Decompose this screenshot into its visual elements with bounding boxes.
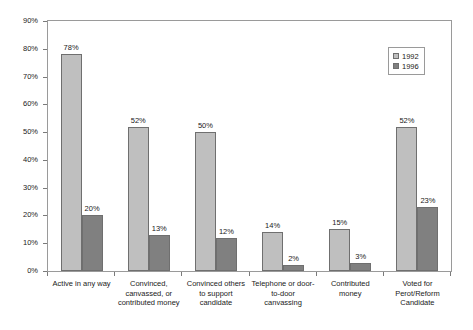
bar-value-label: 52% bbox=[399, 117, 414, 125]
legend: 19921996 bbox=[388, 47, 425, 75]
x-tick-mark bbox=[383, 272, 384, 276]
bar-1996 bbox=[82, 215, 103, 271]
x-tick-mark bbox=[181, 272, 182, 276]
category-label-2: Convinced others to support candidate bbox=[182, 279, 249, 308]
bar-value-label: 12% bbox=[219, 228, 234, 236]
x-tick-mark bbox=[47, 272, 48, 276]
bar-column: 13% bbox=[149, 21, 170, 271]
bar-column: 20% bbox=[82, 21, 103, 271]
x-tick-mark bbox=[249, 272, 250, 276]
bar-1992 bbox=[128, 127, 149, 271]
bar-value-label: 14% bbox=[265, 222, 280, 230]
legend-item-1996: 1996 bbox=[393, 61, 419, 71]
bar-1996 bbox=[350, 263, 371, 271]
bar-group: 15%3% bbox=[317, 21, 384, 271]
bar-group: 14%2% bbox=[250, 21, 317, 271]
bar-value-label: 15% bbox=[332, 219, 347, 227]
y-tick-label: 70% bbox=[23, 73, 38, 81]
bar-column: 2% bbox=[283, 21, 304, 271]
bar-1992 bbox=[195, 132, 216, 271]
bar-1992 bbox=[329, 229, 350, 271]
bar-column: 50% bbox=[195, 21, 216, 271]
bar-value-label: 3% bbox=[355, 253, 366, 261]
legend-label: 1992 bbox=[402, 52, 419, 61]
bar-1992 bbox=[396, 127, 417, 271]
legend-label: 1996 bbox=[402, 62, 419, 71]
y-tick-label: 60% bbox=[23, 100, 38, 108]
bar-1992 bbox=[61, 54, 82, 271]
category-label-1: Convinced, canvassed, or contributed mon… bbox=[115, 279, 182, 308]
bar-column: 3% bbox=[350, 21, 371, 271]
bar-value-label: 78% bbox=[64, 44, 79, 52]
bar-group: 52%13% bbox=[115, 21, 182, 271]
bar-chart: 90%80%70%60%50%40%30%20%10%0% 78%20%52%1… bbox=[0, 0, 473, 330]
x-axis-ticks bbox=[47, 272, 452, 276]
bar-value-label: 2% bbox=[288, 255, 299, 263]
bar-group: 50%12% bbox=[182, 21, 249, 271]
category-label-0: Active in any way bbox=[48, 279, 115, 308]
bar-column: 15% bbox=[329, 21, 350, 271]
bar-column: 12% bbox=[216, 21, 237, 271]
x-axis-category-labels: Active in any wayConvinced, canvassed, o… bbox=[48, 279, 451, 308]
x-tick-mark bbox=[450, 272, 451, 276]
y-tick-label: 90% bbox=[23, 17, 38, 25]
legend-swatch-icon bbox=[393, 63, 399, 69]
bar-1996 bbox=[283, 265, 304, 271]
y-axis: 90%80%70%60%50%40%30%20%10%0% bbox=[0, 0, 47, 330]
y-tick-label: 80% bbox=[23, 45, 38, 53]
bar-1996 bbox=[216, 238, 237, 271]
y-tick-label: 10% bbox=[23, 239, 38, 247]
y-tick-label: 0% bbox=[27, 267, 38, 275]
bar-value-label: 13% bbox=[152, 225, 167, 233]
y-tick-label: 30% bbox=[23, 184, 38, 192]
x-tick-mark bbox=[114, 272, 115, 276]
bar-1996 bbox=[417, 207, 438, 271]
bar-value-label: 52% bbox=[131, 117, 146, 125]
y-tick-label: 40% bbox=[23, 156, 38, 164]
bar-column: 14% bbox=[262, 21, 283, 271]
bar-1992 bbox=[262, 232, 283, 271]
y-tick-label: 20% bbox=[23, 211, 38, 219]
bar-value-label: 20% bbox=[85, 205, 100, 213]
bar-column: 52% bbox=[128, 21, 149, 271]
bar-value-label: 50% bbox=[198, 122, 213, 130]
category-label-3: Telephone or door-to-door canvassing bbox=[250, 279, 317, 308]
category-label-5: Voted for Perot/Reform Candidate bbox=[384, 279, 451, 308]
bar-value-label: 23% bbox=[420, 197, 435, 205]
x-tick-mark bbox=[316, 272, 317, 276]
bar-column: 78% bbox=[61, 21, 82, 271]
y-tick-label: 50% bbox=[23, 128, 38, 136]
bar-group: 78%20% bbox=[48, 21, 115, 271]
category-label-4: Contributed money bbox=[317, 279, 384, 308]
bar-1996 bbox=[149, 235, 170, 271]
legend-item-1992: 1992 bbox=[393, 51, 419, 61]
legend-swatch-icon bbox=[393, 53, 399, 59]
